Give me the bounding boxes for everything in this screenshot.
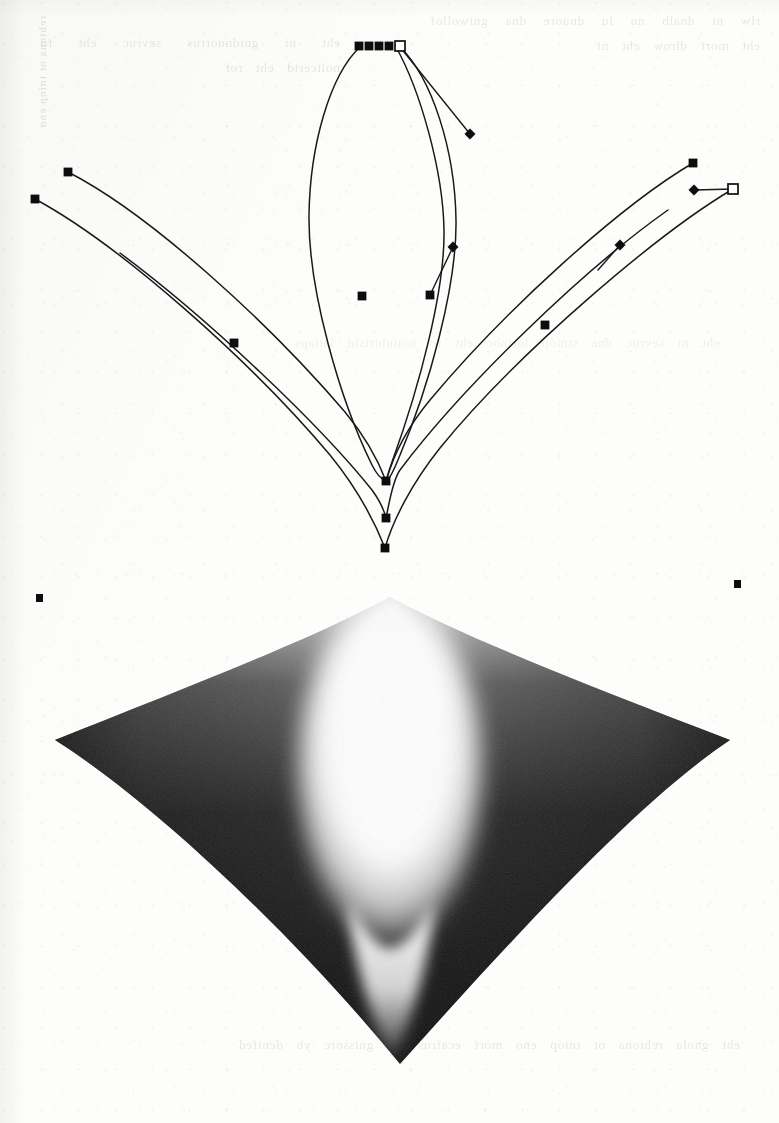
node-cusp-node-lower[interactable]	[381, 544, 389, 552]
node-anchor-right-mid[interactable]	[541, 321, 549, 329]
node-cusp-node-middle[interactable]	[382, 514, 390, 522]
control-node-layer	[0, 0, 779, 1123]
control-node-group	[31, 41, 738, 552]
node-cusp-node-upper[interactable]	[382, 477, 390, 485]
node-anchor-center-mid[interactable]	[358, 292, 366, 300]
stray-dot-right	[734, 580, 741, 588]
node-anchor-left-outer[interactable]	[31, 195, 39, 203]
node-anchor-top-selected[interactable]	[395, 41, 405, 51]
handle-handle-right-end[interactable]	[689, 185, 699, 195]
node-anchor-top-2[interactable]	[365, 42, 373, 50]
handle-handle-right-mid[interactable]	[615, 240, 625, 250]
node-anchor-right-end[interactable]	[728, 184, 738, 194]
node-anchor-top-1[interactable]	[355, 42, 363, 50]
node-layer-svg	[0, 0, 779, 1123]
node-anchor-right-upper[interactable]	[689, 159, 697, 167]
handle-handle-center-right[interactable]	[448, 242, 458, 252]
node-anchor-left-mid[interactable]	[230, 339, 238, 347]
node-anchor-left-upper[interactable]	[64, 168, 72, 176]
node-anchor-top-3[interactable]	[375, 42, 383, 50]
stray-dot-group	[36, 580, 741, 602]
scanned-page: rlw ni dnalb nu lu dnuore dna gniwollof …	[0, 0, 779, 1123]
handle-handle-top-right[interactable]	[465, 129, 475, 139]
stray-dot-left	[36, 594, 43, 602]
node-anchor-center-right[interactable]	[426, 291, 434, 299]
node-anchor-top-4[interactable]	[385, 42, 393, 50]
